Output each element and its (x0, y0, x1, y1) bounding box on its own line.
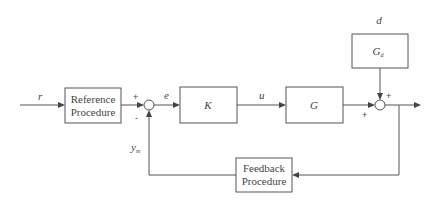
error-arrow (173, 102, 180, 108)
gd-to-sum2-arrow (377, 93, 383, 100)
reference-procedure-line2: Procedure (71, 106, 116, 118)
feedback-to-sum1-arrow (146, 110, 152, 117)
signal-e-label: e (164, 89, 169, 101)
disturbance-block-gd: Gd (352, 34, 408, 68)
sum1-plus-sign: + (133, 92, 138, 102)
plant-label: G (310, 99, 318, 111)
reference-procedure-line1: Reference (71, 93, 116, 105)
output-arrow (414, 102, 421, 108)
ref-to-sum1-arrow (137, 102, 144, 108)
plant-to-sum2-arrow (368, 102, 375, 108)
output-to-feedback-arrow (292, 172, 299, 178)
signal-r-label: r (38, 90, 43, 102)
plant-block-g: G (286, 87, 343, 123)
controller-block-k: K (180, 87, 237, 123)
sum2-plus-left-sign: + (362, 110, 367, 120)
sum1-minus-sign: - (135, 113, 138, 123)
sum2-plus-top-sign: + (386, 91, 391, 101)
control-signal-arrow (279, 102, 286, 108)
signal-d-label: d (376, 14, 382, 26)
controller-label: K (203, 99, 212, 111)
signal-ym-label: ym (130, 141, 141, 154)
control-block-diagram: r Reference Procedure + - e K u G + d Gd… (0, 0, 438, 208)
summing-junction-1 (144, 100, 154, 110)
feedback-procedure-line2: Procedure (242, 175, 287, 187)
signal-u-label: u (259, 89, 265, 101)
feedback-procedure-block: Feedback Procedure (236, 158, 292, 192)
input-r-arrow (58, 102, 65, 108)
feedback-procedure-line1: Feedback (243, 162, 286, 174)
summing-junction-2 (375, 100, 385, 110)
reference-procedure-block: Reference Procedure (65, 88, 121, 123)
